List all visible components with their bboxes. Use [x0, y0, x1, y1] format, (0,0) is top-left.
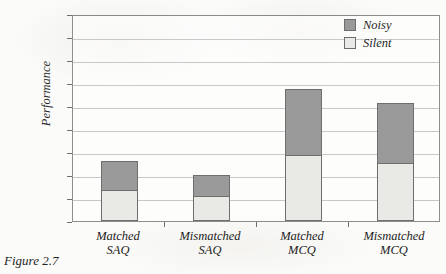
x-tick-label-line1: Matched	[96, 229, 140, 243]
x-tick-label-line1: Mismatched	[179, 229, 240, 243]
x-tick-label: MismatchedMCQ	[335, 229, 446, 257]
chart-legend: NoisySilent	[344, 16, 391, 52]
figure-page: Performance 051015202530354045 MatchedSA…	[0, 0, 446, 274]
gridline	[73, 62, 439, 63]
bar-segment-noisy	[101, 161, 138, 190]
y-tick-mark	[67, 222, 72, 223]
bar-segment-silent	[101, 190, 138, 221]
bar-segment-noisy	[377, 103, 414, 162]
x-tick-label-line1: Matched	[280, 229, 324, 243]
legend-label: Silent	[363, 36, 391, 51]
x-tick-mark	[256, 222, 257, 227]
bar-segment-noisy	[193, 175, 230, 196]
gridline	[73, 85, 439, 86]
legend-item: Noisy	[344, 16, 391, 34]
bar-segment-silent	[285, 155, 322, 221]
y-axis-label: Performance	[39, 34, 54, 154]
x-tick-label-line2: MCQ	[335, 243, 446, 257]
x-tick-mark	[164, 222, 165, 227]
x-tick-label-line1: Mismatched	[363, 229, 424, 243]
bar-segment-silent	[377, 163, 414, 221]
legend-swatch-noisy	[344, 19, 356, 31]
bar-stack	[377, 103, 414, 221]
figure-caption: Figure 2.7	[4, 253, 58, 269]
legend-label: Noisy	[363, 18, 391, 33]
bar-stack	[101, 161, 138, 221]
legend-item: Silent	[344, 34, 391, 52]
legend-swatch-silent	[344, 37, 356, 49]
x-tick-mark	[348, 222, 349, 227]
bar-stack	[285, 89, 322, 221]
bar-segment-silent	[193, 196, 230, 221]
bar-stack	[193, 175, 230, 221]
bar-segment-noisy	[285, 89, 322, 156]
